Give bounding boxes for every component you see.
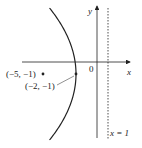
x-axis-label: x bbox=[126, 67, 131, 77]
directrix-label: x = 1 bbox=[109, 128, 129, 138]
focus-label: (−5, −1) bbox=[6, 69, 36, 79]
focus-point bbox=[42, 73, 45, 76]
parabola-curve bbox=[50, 8, 76, 140]
y-axis-label: y bbox=[87, 6, 92, 16]
vertex-point bbox=[75, 73, 78, 76]
parabola-diagram: (−5, −1) (−2, −1) 0 x y x = 1 bbox=[0, 0, 142, 148]
vertex-label: (−2, −1) bbox=[25, 81, 55, 91]
vertex-leader-line bbox=[57, 76, 74, 85]
origin-label: 0 bbox=[89, 64, 94, 74]
